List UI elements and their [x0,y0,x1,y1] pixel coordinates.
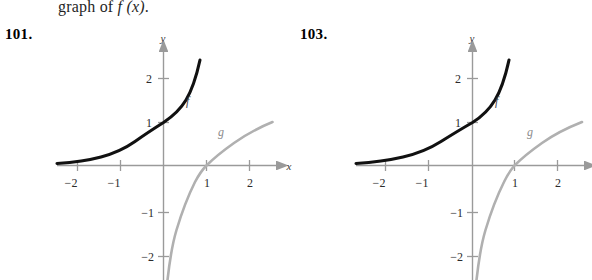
y-tick-label-1: 1 [146,116,152,130]
x-tick-label-2: 2 [555,176,561,190]
x-axis-label: x [286,160,292,172]
curve-label-f: f [186,94,191,108]
y-tick-label-2: 2 [455,72,461,86]
textbook-page: graph of f (x). 101. 103. [0,0,592,280]
curve-g [477,122,583,280]
x-tick-label-neg1: −1 [416,176,429,190]
curve-label-f: f [495,94,500,108]
y-axis-label: y [160,32,166,44]
y-axis-label: y [469,32,475,44]
axes [57,52,276,280]
curve-label-g: g [218,125,224,139]
y-tick-label-2: 2 [146,72,152,86]
y-tick-label-1: 1 [455,116,461,130]
y-tick-label-neg2: −2 [141,250,154,264]
x-tick-label-1: 1 [204,176,210,190]
figure-problem-101: −2 −1 1 2 2 1 −1 −2 y x f g [0,0,296,280]
x-tick-label-1: 1 [512,176,518,190]
curve-g [168,122,273,280]
curve-f [356,60,509,164]
y-tick-label-neg1: −1 [450,206,463,220]
x-tick-label-neg2: −2 [65,176,78,190]
curve-label-g: g [527,125,533,139]
axes [356,52,584,280]
x-tick-label-neg1: −1 [108,176,121,190]
x-tick-label-neg2: −2 [373,176,386,190]
y-tick-label-neg2: −2 [450,250,463,264]
figure-problem-103: −2 −1 1 2 2 1 −1 −2 y f g [296,0,592,280]
curve-f [57,60,200,164]
x-tick-label-2: 2 [247,176,253,190]
y-tick-label-neg1: −1 [141,206,154,220]
